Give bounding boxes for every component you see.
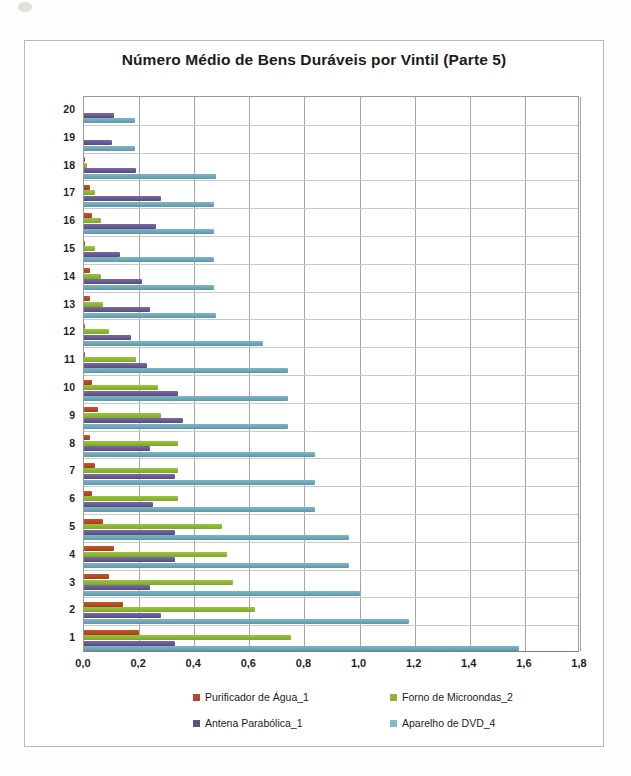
legend-label: Antena Parabólica_1 [205,717,303,729]
chart-legend: Purificador de Água_1 Forno de Microonda… [155,689,555,737]
legend-item-forno-de-microondas-2[interactable]: Forno de Microondas_2 [390,691,513,703]
bar [84,285,214,290]
y-axis-tick-label: 20 [43,103,75,115]
bar-group [84,625,578,653]
bar-group [84,514,578,542]
x-axis-tick-label: 0,0 [63,657,103,669]
x-axis-tick-label: 0,2 [118,657,158,669]
x-axis-tick-label: 1,4 [449,657,489,669]
bar [84,641,175,646]
bar-group [84,264,578,292]
bar [84,619,409,624]
bar-group [84,153,578,181]
y-axis-tick-label: 15 [43,242,75,254]
bar-group [84,375,578,403]
bar-group [84,403,578,431]
bar [84,146,135,151]
legend-swatch-icon [390,694,397,701]
bar [84,646,519,651]
legend-item-antena-parabolica-1[interactable]: Antena Parabólica_1 [193,717,303,729]
bar [84,274,101,279]
legend-swatch-icon [193,720,200,727]
legend-swatch-icon [390,720,397,727]
y-axis-tick-label: 3 [43,576,75,588]
bar [84,613,161,618]
bar [84,313,216,318]
legend-label: Forno de Microondas_2 [402,691,513,703]
y-axis-tick-label: 19 [43,131,75,143]
bar [84,341,263,346]
bar [84,507,315,512]
bar-group [84,347,578,375]
bar [84,424,288,429]
bar [84,202,214,207]
bar [84,224,156,229]
legend-swatch-icon [193,694,200,701]
y-axis-tick-label: 1 [43,631,75,643]
bar [84,302,103,307]
bar [84,452,315,457]
bar [84,413,161,418]
bar [84,574,109,579]
bar [84,591,360,596]
y-axis-tick-label: 17 [43,186,75,198]
x-axis-tick-label: 0,6 [228,657,268,669]
bar [84,607,255,612]
bar [84,524,222,529]
bar [84,324,85,329]
bar [84,496,178,501]
bar [84,246,95,251]
chart-title: Número Médio de Bens Duráveis por Vintil… [25,51,603,69]
bar [84,357,136,362]
legend-item-aparelho-de-dvd-4[interactable]: Aparelho de DVD_4 [390,717,495,729]
bar [84,563,349,568]
bar [84,157,85,162]
bar-group [84,97,578,125]
bar [84,468,178,473]
bar [84,363,147,368]
bar [84,463,95,468]
bar [84,113,114,118]
bar [84,391,178,396]
legend-label: Purificador de Água_1 [205,691,309,703]
bar [84,380,92,385]
bar [84,385,158,390]
bar [84,252,120,257]
bar [84,441,178,446]
bar-group [84,431,578,459]
gridline-vertical [580,97,581,651]
bar [84,585,150,590]
bar [84,185,90,190]
bar [84,368,288,373]
bar [84,546,114,551]
bar [84,268,90,273]
bar-group [84,208,578,236]
y-axis-tick-label: 10 [43,381,75,393]
bar [84,168,136,173]
chart-frame: Número Médio de Bens Duráveis por Vintil… [24,40,604,747]
bar [84,418,183,423]
bar [84,335,131,340]
bar [84,535,349,540]
x-axis-tick-label: 0,4 [173,657,213,669]
bar [84,446,150,451]
bar [84,580,233,585]
scanned-page: Número Médio de Bens Duráveis por Vintil… [0,0,631,776]
bar [84,557,175,562]
bar-group [84,236,578,264]
legend-item-purificador-de-agua-1[interactable]: Purificador de Água_1 [193,691,309,703]
bar [84,296,90,301]
y-axis-tick-label: 5 [43,520,75,532]
y-axis-tick-label: 16 [43,214,75,226]
y-axis-tick-label: 8 [43,437,75,449]
bar-group [84,319,578,347]
x-axis-tick-label: 1,6 [504,657,544,669]
bar [84,196,161,201]
bar [84,480,315,485]
bar [84,396,288,401]
bar [84,241,85,246]
legend-label: Aparelho de DVD_4 [402,717,495,729]
bar [84,474,175,479]
x-axis-tick-label: 1,2 [394,657,434,669]
bar-group [84,570,578,598]
